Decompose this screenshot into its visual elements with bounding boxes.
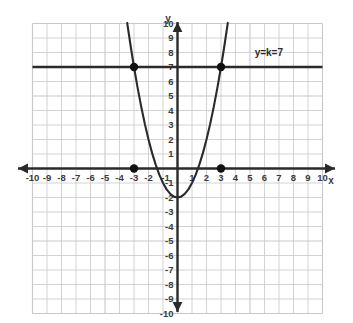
coordinate-graph: -10-9-8-7-6-5-4-3-2-112345678910 1098765… bbox=[0, 0, 353, 323]
y-tick-label: -9 bbox=[165, 293, 173, 304]
data-point-marker bbox=[130, 164, 138, 172]
y-tick-label: -5 bbox=[165, 235, 174, 246]
y-tick-label: -8 bbox=[165, 279, 173, 290]
x-tick-label: -5 bbox=[101, 172, 110, 183]
y-axis-label: y bbox=[165, 13, 171, 24]
y-tick-label: 4 bbox=[168, 105, 174, 116]
x-tick-label: -6 bbox=[86, 172, 94, 183]
y-tick-label: 6 bbox=[168, 76, 173, 87]
data-point-marker bbox=[217, 63, 225, 71]
y-tick-label: 1 bbox=[168, 148, 174, 159]
x-tick-label: -8 bbox=[57, 172, 65, 183]
y-tick-label: 8 bbox=[168, 47, 173, 58]
x-tick-label: 2 bbox=[204, 172, 209, 183]
x-tick-label: -4 bbox=[115, 172, 124, 183]
y-tick-label: -7 bbox=[165, 264, 173, 275]
x-tick-label: -10 bbox=[26, 172, 40, 183]
x-tick-label: -2 bbox=[144, 172, 152, 183]
x-tick-label: 5 bbox=[247, 172, 253, 183]
y-tick-label: 3 bbox=[168, 119, 173, 130]
x-tick-label: 7 bbox=[276, 172, 281, 183]
y-tick-label: 9 bbox=[168, 32, 173, 43]
x-tick-label: 9 bbox=[305, 172, 310, 183]
x-tick-label: 8 bbox=[291, 172, 296, 183]
y-tick-label: -3 bbox=[165, 206, 173, 217]
x-axis-label: x bbox=[328, 175, 334, 186]
data-point-marker bbox=[130, 63, 138, 71]
y-tick-label: -4 bbox=[165, 221, 174, 232]
y-tick-label: -1 bbox=[165, 177, 174, 188]
y-tick-label: 2 bbox=[168, 134, 173, 145]
x-tick-label: -7 bbox=[72, 172, 80, 183]
x-tick-label: 4 bbox=[233, 172, 239, 183]
x-tick-label: 3 bbox=[218, 172, 223, 183]
x-tick-label: -3 bbox=[130, 172, 138, 183]
y-tick-label: -6 bbox=[165, 250, 173, 261]
y-tick-label: 5 bbox=[168, 90, 174, 101]
line-equation-label: y=k=7 bbox=[255, 47, 284, 58]
x-tick-label: -9 bbox=[43, 172, 51, 183]
data-point-marker bbox=[217, 164, 225, 172]
y-tick-label: -10 bbox=[160, 308, 174, 319]
graph-canvas: -10-9-8-7-6-5-4-3-2-112345678910 1098765… bbox=[0, 0, 353, 323]
x-tick-label: 10 bbox=[317, 172, 328, 183]
x-tick-label: 6 bbox=[262, 172, 267, 183]
